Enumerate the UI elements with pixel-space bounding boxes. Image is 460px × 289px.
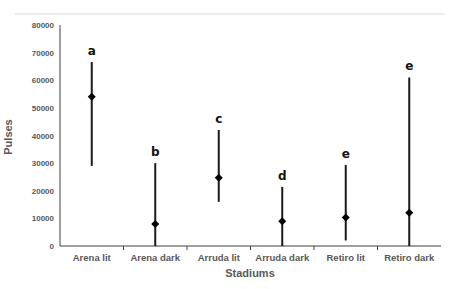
x-category-label: Arruda lit	[198, 252, 241, 263]
y-tick-label: 10000	[32, 214, 55, 223]
y-axis-title: Pulses	[2, 119, 14, 154]
diamond-marker	[88, 93, 96, 101]
y-tick-label: 30000	[32, 159, 55, 168]
significance-letter: b	[151, 145, 160, 159]
diamond-marker	[151, 220, 159, 228]
significance-letter: e	[342, 147, 350, 161]
y-axis-ticks: 0100002000030000400005000060000700008000…	[32, 21, 55, 251]
x-category-label: Arena lit	[73, 252, 112, 263]
x-category-label: Arena dark	[130, 252, 180, 263]
y-tick-label: 40000	[32, 132, 55, 141]
x-axis-ticks	[124, 246, 378, 250]
error-bar-group: e	[342, 147, 350, 240]
error-bar-group: a	[88, 44, 96, 166]
diamond-marker	[278, 217, 286, 225]
x-axis-title: Stadiums	[225, 267, 275, 279]
error-bar-group: d	[278, 169, 287, 246]
significance-letter: d	[278, 169, 287, 183]
significance-letter: c	[215, 112, 222, 126]
diamond-marker	[215, 174, 223, 182]
diamond-marker	[405, 209, 413, 217]
error-bar-group: e	[405, 59, 413, 246]
y-tick-label: 70000	[32, 49, 55, 58]
error-bar-group: c	[215, 112, 223, 202]
significance-letter: a	[88, 44, 96, 58]
x-axis-labels: Arena litArena darkArruda litArruda dark…	[73, 252, 435, 263]
error-bar-chart: 0100002000030000400005000060000700008000…	[0, 0, 460, 289]
error-bars: abcdee	[88, 44, 414, 246]
y-tick-label: 60000	[32, 76, 55, 85]
x-category-label: Arruda dark	[255, 252, 310, 263]
diamond-marker	[342, 214, 350, 222]
x-category-label: Retiro dark	[384, 252, 435, 263]
x-category-label: Retiro lit	[326, 252, 365, 263]
y-tick-label: 20000	[32, 187, 55, 196]
y-tick-label: 0	[50, 242, 55, 251]
y-tick-label: 80000	[32, 21, 55, 30]
y-tick-label: 50000	[32, 104, 55, 113]
error-bar-group: b	[151, 145, 160, 246]
significance-letter: e	[405, 59, 413, 73]
